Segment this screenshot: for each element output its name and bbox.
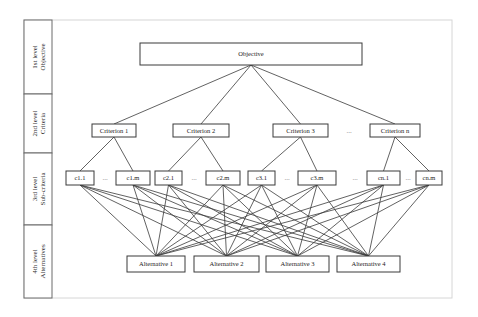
edge-subcriterion-alternative: [223, 185, 369, 256]
ellipsis-marker: ...: [284, 174, 290, 182]
level-label-text: 3rd levelSub-criteria: [31, 172, 47, 206]
subcriterion-node-4: c2.m: [206, 171, 240, 185]
criterion-node-3-label: Criterion 3: [286, 127, 314, 134]
ellipsis-marker: ...: [102, 174, 108, 182]
level-label-text: 1st levelObjective: [31, 43, 47, 70]
ellipsis-marker: ...: [191, 174, 197, 182]
edge-subcriterion-alternative: [298, 185, 430, 256]
subcriterion-node-6-label: c3.m: [311, 174, 324, 181]
subcriterion-node-4-label: c2.m: [217, 174, 230, 181]
criterion-node-2: Criterion 2: [173, 124, 229, 137]
subcriterion-node-2-label: c1.m: [127, 174, 140, 181]
edge-criterion-subcriterion: [262, 137, 301, 171]
subcriterion-node-6: c3.m: [298, 171, 336, 185]
objective-node: Objective: [140, 43, 362, 65]
edge-subcriterion-alternative: [223, 185, 298, 256]
edge-objective-criterion: [251, 65, 395, 124]
criterion-node-4-label: Criterion n: [381, 127, 410, 134]
criterion-node-1: Criterion 1: [92, 124, 136, 137]
level-label-text: 2nd levelCriteria: [31, 111, 47, 137]
subcriterion-node-8: cn.m: [416, 171, 442, 185]
edge-criterion-subcriterion: [384, 137, 396, 171]
edge-subcriterion-alternative: [80, 185, 369, 256]
criterion-node-4: Criterion n: [370, 124, 420, 137]
edge-criterion-subcriterion: [395, 137, 429, 171]
edge-criterion-subcriterion: [80, 137, 114, 171]
level-label-1: 1st levelObjective: [24, 20, 52, 94]
criterion-node-1-label: Criterion 1: [100, 127, 128, 134]
alternative-node-2: Alternative 2: [194, 256, 259, 272]
alternative-node-3-label: Alternative 3: [280, 260, 314, 267]
alternative-node-4-label: Alternative 4: [351, 260, 386, 267]
ellipsis-marker: ...: [352, 174, 358, 182]
edge-subcriterion-alternative: [298, 185, 318, 256]
subcriterion-node-1: c1.1: [66, 171, 94, 185]
edge-subcriterion-alternative: [156, 185, 384, 256]
edge-objective-criterion: [114, 65, 251, 124]
subcriterion-node-7-label: cn.1: [378, 174, 389, 181]
edge-subcriterion-alternative: [156, 185, 262, 256]
ellipsis-marker: ...: [346, 127, 352, 135]
level-label-2: 2nd levelCriteria: [24, 94, 52, 153]
ellipsis-marker: ...: [405, 174, 411, 182]
connection-lines: [80, 65, 429, 256]
level-label-3: 3rd levelSub-criteria: [24, 153, 52, 225]
subcriterion-node-8-label: cn.m: [423, 174, 436, 181]
alternative-node-2-label: Alternative 2: [209, 260, 243, 267]
alternative-node-3: Alternative 3: [266, 256, 329, 272]
edge-objective-criterion: [251, 65, 301, 124]
criterion-node-3: Criterion 3: [273, 124, 328, 137]
subcriterion-node-5: c3.1: [248, 171, 275, 185]
edge-criterion-subcriterion: [201, 137, 223, 171]
ahp-hierarchy-diagram: 1st levelObjective2nd levelCriteria3rd l…: [0, 0, 478, 317]
edge-criterion-subcriterion: [301, 137, 318, 171]
alternative-node-1: Alternative 1: [127, 256, 185, 272]
edge-criterion-subcriterion: [169, 137, 202, 171]
edge-objective-criterion: [201, 65, 251, 124]
subcriterion-node-7: cn.1: [367, 171, 400, 185]
subcriterion-node-1-label: c1.1: [74, 174, 85, 181]
alternative-node-1-label: Alternative 1: [139, 260, 173, 267]
subcriterion-node-3-label: c2.1: [163, 174, 174, 181]
subcriterion-node-3: c2.1: [155, 171, 182, 185]
edge-subcriterion-alternative: [227, 185, 318, 256]
criterion-node-2-label: Criterion 2: [187, 127, 215, 134]
objective-node-label: Objective: [238, 50, 263, 57]
edge-subcriterion-alternative: [80, 185, 227, 256]
subcriterion-node-2: c1.m: [116, 171, 150, 185]
level-label-4: 4th levelAlternatives: [24, 225, 52, 298]
level-label-column: 1st levelObjective2nd levelCriteria3rd l…: [24, 20, 52, 298]
edge-subcriterion-alternative: [80, 185, 298, 256]
subcriterion-node-5-label: c3.1: [256, 174, 267, 181]
alternative-node-4: Alternative 4: [337, 256, 400, 272]
edge-criterion-subcriterion: [114, 137, 133, 171]
